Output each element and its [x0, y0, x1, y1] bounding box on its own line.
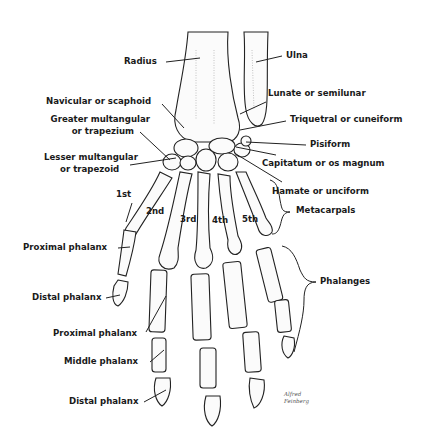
ring-proximal-phalanx	[223, 261, 248, 329]
label-thumb-distal-phalanx: Distal phalanx	[32, 292, 102, 303]
middle-middle-phalanx	[200, 348, 216, 388]
capitate-bone	[196, 149, 216, 171]
ulna-bone	[244, 32, 268, 126]
label-hamate: Hamate or unciform	[272, 186, 369, 197]
label-ulna: Ulna	[286, 50, 308, 61]
label-trapezium: or trapezium	[46, 126, 134, 137]
label-finger-proximal-phalanx: Proximal phalanx	[53, 328, 137, 339]
label-metacarpals: Metacarpals	[296, 205, 355, 216]
label-lesser-multangular: Lesser multangular	[44, 152, 138, 163]
thumb-proximal-phalanx	[118, 230, 136, 276]
hand-skeleton-diagram: Radius Ulna Navicular or scaphoid Lunate…	[0, 0, 425, 446]
label-thumb-proximal-phalanx: Proximal phalanx	[23, 242, 107, 253]
ring-distal-phalanx	[249, 378, 264, 408]
label-lunate: Lunate or semilunar	[268, 88, 366, 99]
label-trapezoid: or trapezoid	[60, 164, 119, 175]
label-triquetral: Triquetral or cuneiform	[290, 114, 402, 125]
pisiform-bone	[241, 136, 251, 146]
radius-bone	[175, 32, 240, 142]
little-middle-phalanx	[274, 299, 291, 332]
hamate-bone	[218, 153, 238, 171]
middle-distal-phalanx	[204, 396, 220, 426]
label-digit-2nd: 2nd	[146, 206, 164, 217]
trapezoid-bone	[180, 156, 196, 170]
label-pisiform: Pisiform	[310, 139, 350, 150]
label-digit-1st: 1st	[116, 189, 131, 200]
label-greater-multangular: Greater multangular	[46, 114, 150, 125]
artist-signature: Alfred Feinberg	[284, 391, 309, 405]
label-digit-4th: 4th	[212, 215, 228, 226]
label-finger-distal-phalanx: Distal phalanx	[69, 396, 139, 407]
label-phalanges: Phalanges	[320, 276, 370, 287]
label-navicular: Navicular or scaphoid	[46, 96, 151, 107]
navicular-bone	[174, 139, 198, 157]
label-digit-3rd: 3rd	[180, 214, 196, 225]
label-finger-middle-phalanx: Middle phalanx	[64, 356, 138, 367]
label-radius: Radius	[124, 56, 157, 67]
label-capitatum: Capitatum or os magnum	[262, 158, 385, 169]
little-proximal-phalanx	[256, 247, 284, 303]
middle-proximal-phalanx	[191, 274, 211, 341]
thumb-distal-phalanx	[113, 280, 128, 306]
index-middle-phalanx	[152, 338, 166, 372]
metacarpal-3	[195, 172, 213, 268]
label-digit-5th: 5th	[242, 214, 258, 225]
ring-middle-phalanx	[243, 331, 262, 372]
little-distal-phalanx	[282, 336, 295, 358]
metacarpal-5	[236, 172, 272, 235]
